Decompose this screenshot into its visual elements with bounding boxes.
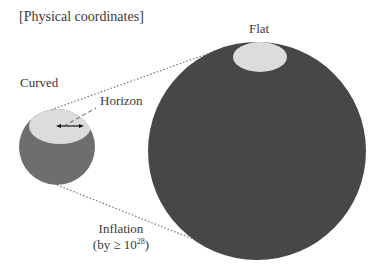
inflation-label-line2: (by ≥ 1028) (86, 237, 156, 253)
inflation-exponent: 28 (137, 237, 145, 246)
curved-label: Curved (20, 76, 58, 91)
horizon-label: Horizon (100, 94, 143, 109)
flat-label: Flat (249, 22, 269, 37)
inflation-label: Inflation (by ≥ 1028) (86, 222, 156, 253)
inflation-factor-suffix: ) (145, 237, 149, 252)
inflation-label-line1: Inflation (86, 222, 156, 237)
diagram-title: [Physical coordinates] (19, 9, 144, 25)
large-horizon-patch (233, 42, 287, 72)
large-flat-sphere (148, 42, 366, 260)
inflation-diagram (0, 0, 385, 271)
inflation-factor-prefix: (by ≥ 10 (93, 237, 137, 252)
